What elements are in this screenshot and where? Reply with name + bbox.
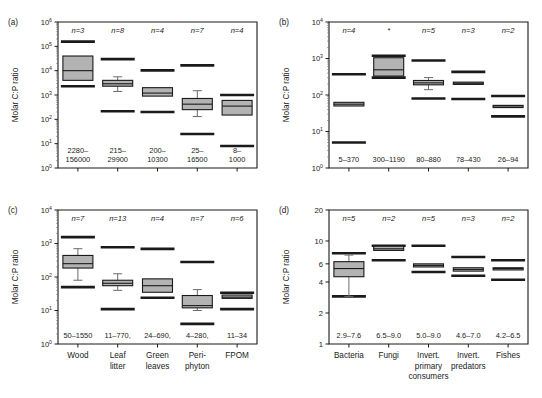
range-label: 10300	[147, 155, 168, 164]
range-label: 156000	[66, 155, 91, 164]
y-tick-label: 103	[41, 90, 52, 100]
range-label: 5–370	[339, 155, 360, 164]
y-tick-label: 103	[41, 238, 52, 248]
range-label: 6.5–9.0	[376, 331, 401, 340]
figure-root: (a)Molar C:P ratio100101102103104105106n…	[0, 0, 542, 398]
x-tick-label: Fungi	[378, 351, 399, 360]
panel-label: (b)	[279, 18, 289, 27]
box-plot-group: n=2	[372, 214, 406, 260]
range-label: 11–770,	[105, 331, 131, 340]
quartile-box	[374, 58, 404, 76]
y-tick-label: 101	[41, 138, 52, 148]
x-tick-label: FPOM	[225, 351, 249, 360]
n-label: n=6	[231, 214, 245, 223]
panel-a: (a)Molar C:P ratio100101102103104105106n…	[0, 0, 271, 190]
box-plot-group: n=7	[180, 26, 214, 134]
range-label: 215–	[109, 146, 126, 155]
n-label: n=3	[71, 26, 85, 35]
x-tick-label: Bacteria	[334, 351, 364, 360]
quartile-box	[334, 262, 364, 277]
range-label: 16500	[187, 155, 208, 164]
y-tick-label: 102	[312, 90, 323, 100]
x-tick-label: Peri-	[189, 351, 207, 360]
range-label: 4.6–7.0	[456, 331, 481, 340]
box-plot-group: n=5	[412, 214, 446, 272]
n-label: n=4	[151, 214, 164, 223]
box-plot-group: n=3	[451, 214, 485, 276]
y-axis-title: Molar C:P ratio	[282, 67, 291, 122]
plot-frame	[58, 210, 257, 344]
range-label: 2.9–7.6	[337, 331, 362, 340]
n-label: *	[387, 26, 391, 35]
range-label: 300–1190	[373, 155, 405, 164]
box-plot-group: n=2	[491, 26, 525, 116]
range-label: 80–880	[416, 155, 441, 164]
y-axis-title: Molar C:P ratio	[11, 249, 20, 304]
box-plot-group: n=4	[332, 26, 366, 142]
x-tick-label: primary	[415, 362, 443, 371]
box-plot-group: n=7	[61, 214, 95, 287]
y-tick-label: 101	[312, 126, 323, 136]
box-plot-group: n=13	[101, 214, 135, 309]
n-label: n=5	[342, 214, 356, 223]
range-label: 200–	[149, 146, 166, 155]
y-tick-label: 1	[319, 340, 323, 349]
y-tick-label: 10	[315, 237, 323, 246]
y-tick-label: 2	[319, 309, 323, 318]
y-tick-label: 102	[41, 272, 52, 282]
y-tick-label: 4	[319, 278, 323, 287]
x-tick-label: Green	[146, 351, 169, 360]
y-tick-label: 100	[41, 339, 52, 349]
panel-d: (d)Molar C:P ratio12461020n=5n=2n=5n=3n=…	[271, 188, 542, 398]
y-axis-title: Molar C:P ratio	[11, 67, 20, 122]
n-label: n=7	[71, 214, 85, 223]
box-plot-group: n=6	[220, 214, 254, 309]
y-tick-label: 101	[41, 305, 52, 315]
n-label: n=3	[462, 26, 476, 35]
x-tick-label: Invert.	[457, 351, 480, 360]
chart-a: (a)Molar C:P ratio100101102103104105106n…	[0, 0, 271, 190]
y-tick-label: 100	[41, 163, 52, 173]
x-tick-label: consumers	[408, 372, 448, 381]
box-plot-group: n=3	[451, 26, 485, 99]
x-tick-label: leaves	[146, 362, 170, 371]
y-tick-label: 103	[312, 53, 323, 63]
range-label: 2280–	[68, 146, 89, 155]
box-plot-group: n=3	[61, 26, 95, 86]
x-tick-label: Leaf	[110, 351, 127, 360]
n-label: n=13	[109, 214, 127, 223]
n-label: n=2	[502, 214, 516, 223]
box-plot-group: n=5	[332, 214, 366, 296]
y-tick-label: 104	[41, 65, 52, 75]
y-tick-label: 102	[41, 114, 52, 124]
range-label: 4–280,	[186, 331, 209, 340]
y-tick-label: 104	[41, 205, 52, 215]
n-label: n=7	[191, 26, 205, 35]
quartile-box	[63, 255, 93, 268]
range-label: 24–690,	[144, 331, 171, 340]
y-tick-label: 104	[312, 17, 323, 27]
x-tick-label: litter	[110, 362, 126, 371]
x-tick-label: Wood	[67, 351, 89, 360]
range-label: 5.0–9.0	[416, 331, 441, 340]
n-label: n=8	[111, 26, 125, 35]
panel-label: (a)	[8, 18, 18, 27]
n-label: n=7	[191, 214, 205, 223]
y-tick-label: 105	[41, 41, 52, 51]
box-plot-group: n=4	[141, 26, 175, 112]
y-tick-label: 20	[315, 206, 323, 215]
box-plot-group: n=8	[101, 26, 135, 111]
n-label: n=5	[422, 26, 436, 35]
panel-c: (c)Molar C:P ratio100101102103104n=7n=13…	[0, 188, 271, 398]
box-plot-group: n=2	[491, 214, 525, 280]
range-label: 26–94	[498, 155, 519, 164]
x-tick-label: phyton	[185, 362, 210, 371]
range-label: 11–34	[227, 331, 247, 340]
n-label: n=4	[151, 26, 164, 35]
range-label: 29900	[107, 155, 128, 164]
quartile-box	[63, 56, 93, 80]
y-axis-title: Molar C:P ratio	[282, 249, 291, 304]
n-label: n=4	[342, 26, 355, 35]
n-label: n=4	[231, 26, 244, 35]
quartile-box	[143, 88, 173, 96]
